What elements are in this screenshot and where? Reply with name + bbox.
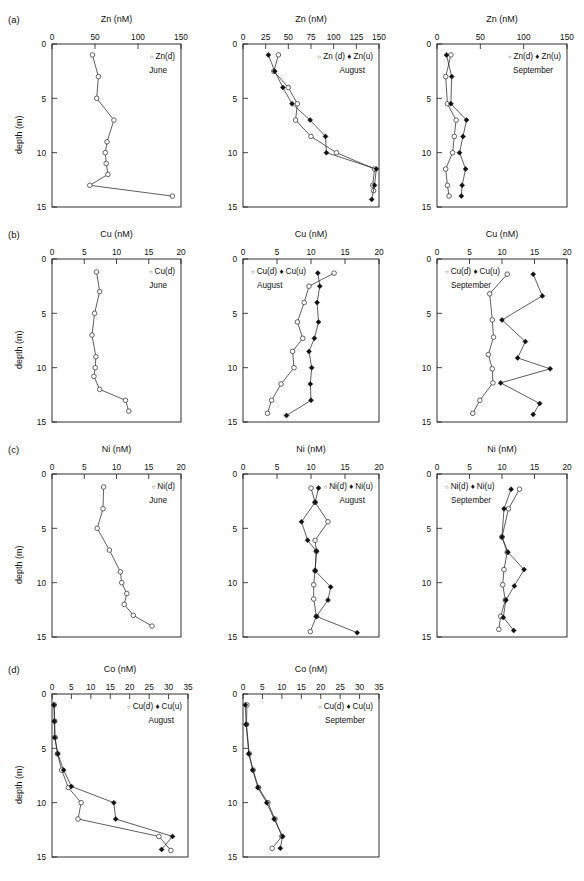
data-point (269, 398, 274, 403)
legend-label: Ni(u) (355, 482, 373, 491)
legend-label: Ni(u) (477, 482, 495, 491)
data-point (311, 583, 316, 588)
x-tick-label: 10 (497, 462, 507, 472)
data-point (118, 570, 123, 575)
data-point (308, 382, 313, 387)
y-tick-label: 10 (228, 148, 238, 158)
x-tick-label: 10 (306, 247, 316, 257)
x-tick-label: 25 (145, 682, 155, 692)
y-tick-label: 0 (41, 39, 46, 49)
y-tick-label: 10 (228, 578, 238, 588)
legend-entry: ♦Zn(u) (535, 52, 561, 61)
data-point (478, 398, 483, 403)
x-tick-label: 5 (260, 682, 265, 692)
data-point (119, 580, 124, 585)
x-tick-label: 0 (435, 462, 440, 472)
x-tick-label: 0 (241, 682, 246, 692)
series-line-Cud (268, 273, 335, 413)
data-point (309, 365, 314, 370)
y-tick-label: 5 (41, 744, 46, 754)
y-tick-label: 15 (228, 852, 238, 862)
x-tick-label: 0 (435, 247, 440, 257)
chart-season-label: August (0, 496, 365, 505)
y-tick-label: 0 (232, 254, 237, 264)
chart-title-cu-august: Cu (nM) (243, 229, 379, 239)
y-tick-label: 10 (228, 798, 238, 808)
x-tick-label: 150 (560, 32, 574, 42)
legend-label: Cu(u) (285, 267, 305, 276)
data-point (170, 194, 175, 199)
legend-label: Cu(u) (479, 267, 499, 276)
data-point (512, 583, 517, 588)
data-point (506, 507, 511, 512)
x-tick-label: 10 (306, 462, 316, 472)
legend-label: Ni(d) (451, 482, 469, 491)
legend-label: Ni(d) (329, 482, 347, 491)
data-point (125, 591, 130, 596)
data-point (95, 526, 100, 531)
y-tick-label: 5 (41, 524, 46, 534)
x-tick-label: 20 (176, 247, 186, 257)
x-tick-label: 50 (476, 32, 486, 42)
data-point (307, 284, 312, 289)
data-point (517, 487, 522, 492)
data-point (502, 506, 507, 511)
data-point (457, 150, 462, 155)
data-point (317, 284, 322, 289)
data-point (461, 134, 466, 139)
legend-open-circle-icon: ○ (508, 54, 512, 60)
series-line-Znd (274, 55, 375, 191)
figure-root: (a)Zn (nM)depth (m)050100150051015○Zn(d)… (0, 0, 584, 881)
x-tick-label: 15 (530, 247, 540, 257)
legend-entry: ○Cu(d) (251, 267, 277, 276)
x-tick-label: 15 (297, 682, 307, 692)
data-point (113, 817, 118, 822)
y-tick-label: 15 (422, 632, 432, 642)
y-tick-label: 15 (422, 417, 432, 427)
y-tick-label: 5 (41, 309, 46, 319)
chart-legend-co-september: ○Cu(d) ♦Cu(u) (0, 702, 373, 711)
series-line-Cud (247, 705, 282, 848)
x-tick-label: 100 (131, 32, 145, 42)
x-tick-label: 0 (50, 247, 55, 257)
data-point (459, 194, 464, 199)
y-tick-label: 15 (37, 202, 47, 212)
y-tick-label: 5 (426, 524, 431, 534)
legend-entry: ○Ni(d) (445, 482, 468, 491)
chart-title-ni-june: Ni (nM) (52, 444, 181, 454)
x-tick-label: 100 (517, 32, 531, 42)
panel-row-label: (a) (8, 14, 20, 25)
x-tick-label: 25 (336, 682, 346, 692)
x-tick-label: 50 (90, 32, 100, 42)
x-tick-label: 20 (176, 462, 186, 472)
series-line-Znd (90, 55, 173, 196)
data-point (326, 598, 331, 603)
y-tick-label: 0 (426, 469, 431, 479)
chart-title-co-september: Co (nM) (243, 664, 379, 674)
legend-entry: ♦Ni(u) (471, 482, 495, 491)
data-point (460, 183, 465, 188)
x-tick-label: 15 (144, 462, 154, 472)
x-tick-label: 20 (374, 247, 384, 257)
x-tick-label: 20 (562, 247, 572, 257)
data-point (471, 411, 476, 416)
legend-open-circle-icon: ○ (445, 484, 449, 490)
panel-row-label: (b) (8, 229, 20, 240)
data-point (157, 834, 162, 839)
x-tick-label: 0 (241, 247, 246, 257)
chart-title-ni-august: Ni (nM) (243, 444, 379, 454)
y-tick-label: 0 (41, 689, 46, 699)
data-point (299, 519, 304, 524)
data-point (76, 817, 81, 822)
x-tick-label: 75 (306, 32, 316, 42)
data-point (103, 150, 108, 155)
data-point (93, 365, 98, 370)
y-tick-label: 15 (37, 632, 47, 642)
data-point (309, 398, 314, 403)
data-point (515, 355, 520, 360)
chart-legend-cu-august: ○Cu(d) ♦Cu(u) (251, 267, 306, 276)
y-tick-label: 10 (37, 798, 47, 808)
x-tick-label: 5 (82, 462, 87, 472)
data-point (315, 271, 320, 276)
y-tick-label: 0 (232, 469, 237, 479)
